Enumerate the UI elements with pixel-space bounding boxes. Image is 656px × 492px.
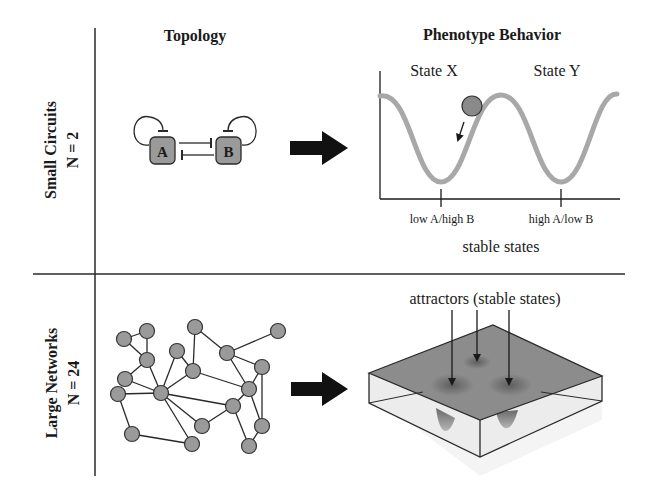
network-node (242, 439, 257, 454)
node-a-label: A (157, 144, 168, 160)
attractor-landscape: attractors (stable states) (369, 290, 602, 476)
state-x-label: State X (410, 62, 458, 79)
row-label-small: Small Circuits N = 2 (42, 101, 81, 199)
diagram-canvas: Topology Phenotype Behavior Small Circui… (0, 0, 656, 492)
row-title-small: Small Circuits (42, 101, 59, 199)
network-node (111, 387, 126, 402)
row-title-large: Large Networks (43, 328, 61, 439)
network-node (188, 320, 203, 335)
arrow-right-icon (291, 372, 348, 406)
node-b-label: B (223, 144, 233, 160)
network-node (226, 399, 241, 414)
network-node (117, 332, 132, 347)
landscape-curve (380, 94, 617, 182)
network-node (140, 353, 155, 368)
network-node (170, 344, 185, 359)
x-axis-label: stable states (463, 238, 540, 255)
arrow-right-icon (290, 131, 348, 165)
header-topology: Topology (164, 27, 227, 45)
network-node (242, 382, 257, 397)
network-node (154, 386, 169, 401)
attractor-well (488, 374, 532, 396)
network-node (186, 364, 201, 379)
row-label-large: Large Networks N = 24 (43, 328, 82, 439)
network-node (255, 419, 270, 434)
tick-label-high-a: high A/low B (529, 212, 594, 226)
state-y-label: State Y (534, 62, 581, 79)
header-phenotype: Phenotype Behavior (423, 26, 561, 44)
row-subtitle-large: N = 24 (65, 361, 82, 406)
ball-motion-arrow (458, 122, 464, 140)
network-node (125, 427, 140, 442)
network-node (195, 419, 210, 434)
network-node (271, 324, 286, 339)
toggle-switch-circuit: A B (134, 117, 256, 164)
network-node (220, 346, 235, 361)
tick-label-low-a: low A/high B (410, 212, 475, 226)
ball-icon (462, 96, 482, 116)
network-node (118, 372, 133, 387)
attractor-label: attractors (stable states) (409, 290, 560, 308)
energy-landscape-plot: State X State Y low A/high B high A/low … (380, 62, 620, 255)
network-node (255, 360, 270, 375)
row-subtitle-small: N = 2 (64, 132, 81, 169)
network-node (140, 324, 155, 339)
network-node (185, 437, 200, 452)
